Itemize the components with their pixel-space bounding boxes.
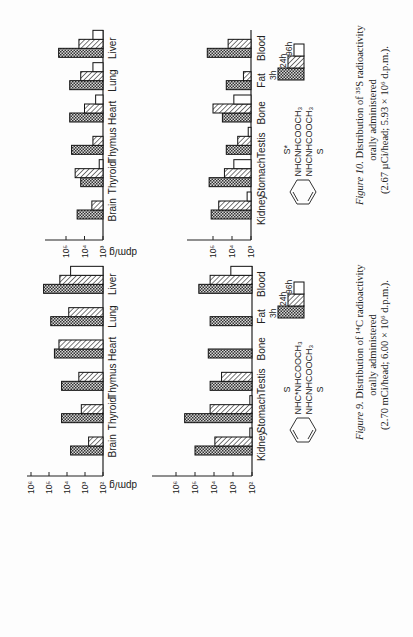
tick-label: 10⁴	[62, 481, 72, 494]
tick-label: 10⁵	[208, 245, 218, 258]
category-label: Brain	[107, 434, 118, 457]
legend-swatch-3h	[278, 68, 304, 80]
category-label: Bone	[256, 337, 267, 361]
bar-96h	[93, 63, 103, 72]
bar-24h	[243, 72, 251, 81]
structure-bottom-group: S	[315, 148, 325, 154]
bar-3h	[222, 113, 251, 122]
legend-label-3h: 3h	[268, 70, 278, 80]
bar-96h	[234, 95, 251, 104]
rotated-paper-page: 10³10⁴10⁵BrainThyroidThymusHeartLungLive…	[0, 0, 413, 637]
bar-3h	[51, 317, 103, 326]
bar-96h	[99, 160, 103, 169]
bar-3h	[226, 81, 251, 90]
bar-96h	[231, 266, 252, 275]
category-label: Fat	[256, 73, 267, 88]
structure-figure-9: S NHC*NHCOOCH₃ NHCNHCOOCH₃ S	[282, 341, 326, 443]
bar-24h	[228, 39, 251, 48]
structure-top-group: S*	[282, 145, 292, 155]
structure-ring-icon	[289, 179, 319, 205]
bar-3h	[71, 446, 103, 455]
tick-label: 10³	[80, 482, 90, 494]
caption-fig-label: Figure 9.	[354, 401, 365, 440]
structure-top-chain: NHC*NHCOOCH₃	[293, 341, 304, 414]
tick-label: 10³	[228, 482, 238, 494]
bar-3h	[59, 48, 103, 57]
structure-bottom-chain: NHCNHCOOCH₃	[304, 341, 315, 414]
bar-96h	[234, 160, 251, 169]
bar-96h	[71, 266, 103, 275]
bar-24h	[219, 201, 251, 210]
chart-figure-10-lower: 10³10⁴10⁵KidneyStomachTestisBoneFatBlood	[187, 30, 267, 258]
bar-3h	[81, 178, 103, 187]
tick-label: 10²	[247, 482, 257, 494]
bar-3h	[207, 48, 251, 57]
bar-3h	[77, 210, 103, 219]
caption-line2: orally administered	[367, 270, 380, 440]
bar-3h	[70, 81, 103, 90]
category-label: Testis	[256, 368, 267, 394]
category-label: Blood	[256, 271, 267, 297]
bar-24h	[224, 169, 251, 178]
tick-label: 10⁵	[44, 481, 54, 494]
legend-swatch-3h	[278, 306, 304, 318]
tick-label: 10⁴	[80, 245, 90, 258]
bar-24h	[213, 104, 251, 113]
tick-label: 10³	[246, 246, 256, 258]
category-label: Liver	[107, 273, 118, 295]
legend-label-3h: 3h	[268, 308, 278, 318]
legend-swatch-24h	[288, 294, 304, 306]
chart-figure-9-lower: 10²10³10⁴10⁵10⁶KidneyStomachTestisBoneFa…	[152, 266, 267, 494]
chart-figure-10-upper: 10³10⁴10⁵BrainThyroidThymusHeartLungLive…	[45, 30, 118, 258]
bar-24h	[222, 372, 252, 381]
figures-canvas: 10³10⁴10⁵BrainThyroidThymusHeartLungLive…	[0, 0, 413, 637]
caption-line3: (2.67 µCi/head; 5.93 × 10⁶ d.p.m.).	[379, 35, 392, 205]
category-label: Testis	[256, 132, 267, 158]
bar-24h	[92, 201, 103, 210]
bar-96h	[248, 127, 251, 136]
bar-96h	[96, 95, 103, 104]
category-label: Lung	[107, 69, 118, 91]
bar-24h	[85, 104, 104, 113]
structure-figure-10: S* NHCNHCOOCH₃ NHCNHCOOCH₃ S	[282, 107, 326, 205]
caption-figure-10: Figure 10. Distribution of ³⁵S radioacti…	[354, 35, 392, 205]
caption-line3: (2.70 mCi/head; 6.00 × 10⁶ d.p.m.).	[379, 270, 392, 440]
bar-3h	[62, 414, 103, 423]
bar-24h	[59, 340, 103, 349]
chart-figure-9-upper: 10²10³10⁴10⁵10⁶BrainThyroidThymusHeartLu…	[26, 266, 118, 494]
category-label: Brain	[107, 198, 118, 221]
tick-label: 10⁵	[61, 245, 71, 258]
bar-24h	[81, 405, 103, 414]
legend-figure-9: 3h24h96h	[268, 280, 304, 318]
ylabel-figure-9: dpm/g	[109, 480, 137, 491]
legend-swatch-96h	[294, 44, 304, 56]
bar-3h	[54, 349, 103, 358]
structure-bottom-chain: NHCNHCOOCH₃	[304, 107, 315, 177]
category-label: Kidney	[256, 195, 267, 226]
category-label: Thymus	[107, 127, 118, 163]
category-label: Thyroid	[107, 397, 118, 430]
bar-24h	[210, 275, 252, 284]
caption-line1: Distribution of ³⁵S radioactivity	[354, 25, 365, 158]
bar-24h	[79, 39, 103, 48]
bar-24h	[81, 72, 103, 81]
caption-figure-9: Figure 9. Distribution of ¹⁴C radioactiv…	[354, 270, 392, 440]
bar-3h	[44, 284, 103, 293]
tick-label: 10⁴	[227, 245, 237, 258]
bar-24h	[75, 169, 103, 178]
bar-3h	[208, 349, 252, 358]
category-label: Heart	[107, 336, 118, 361]
category-label: Bone	[256, 101, 267, 125]
bar-3h	[185, 414, 252, 423]
tick-label: 10⁴	[209, 481, 219, 494]
category-label: Liver	[107, 37, 118, 59]
tick-label: 10³	[98, 246, 108, 258]
bar-3h	[72, 145, 103, 154]
bar-3h	[199, 284, 252, 293]
bar-3h	[210, 317, 252, 326]
caption-line2: orally administered	[367, 35, 380, 205]
bar-3h	[209, 178, 251, 187]
category-label: Fat	[256, 309, 267, 324]
bar-96h	[247, 192, 251, 201]
bar-3h	[226, 145, 251, 154]
